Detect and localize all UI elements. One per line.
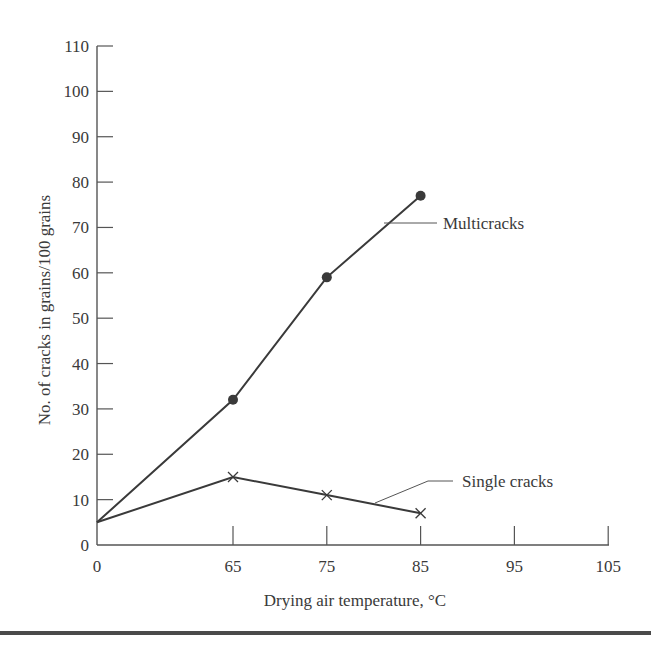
- y-tick-label: 80: [72, 173, 89, 192]
- data-point-circle: [416, 191, 426, 201]
- x-axis-title: Drying air temperature, °C: [264, 591, 446, 610]
- y-tick-label: 40: [72, 355, 89, 374]
- single-cracks-label: Single cracks: [462, 472, 553, 491]
- chart: 0102030405060708090100110 065758595105 M…: [0, 0, 651, 646]
- series-layer: [97, 191, 426, 523]
- y-tick-label: 20: [72, 445, 89, 464]
- x-axis-ticks: 065758595105: [93, 526, 621, 576]
- data-point-circle: [322, 272, 332, 282]
- y-tick-label: 0: [81, 536, 90, 555]
- multicracks-label: Multicracks: [443, 214, 524, 233]
- y-tick-label: 110: [64, 37, 89, 56]
- x-tick-label: 85: [412, 557, 429, 576]
- single-cracks-line: [97, 477, 421, 522]
- y-tick-label: 10: [72, 491, 89, 510]
- multicracks-line: [97, 196, 421, 523]
- y-tick-label: 100: [64, 82, 90, 101]
- x-tick-label: 0: [93, 557, 102, 576]
- y-tick-label: 30: [72, 400, 89, 419]
- x-tick-label: 75: [318, 557, 335, 576]
- data-point-circle: [228, 395, 238, 405]
- x-tick-label: 105: [595, 557, 621, 576]
- y-tick-label: 70: [72, 218, 89, 237]
- bottom-rule: [0, 631, 651, 635]
- y-tick-label: 60: [72, 264, 89, 283]
- y-axis-ticks: 0102030405060708090100110: [64, 37, 114, 555]
- x-tick-label: 95: [506, 557, 523, 576]
- y-axis-title: No. of cracks in grains/100 grains: [35, 195, 54, 425]
- y-tick-label: 90: [72, 128, 89, 147]
- annotation-layer: Multicracks Single cracks: [375, 214, 553, 503]
- single-cracks-leader-line: [375, 481, 453, 503]
- x-tick-label: 65: [225, 557, 242, 576]
- y-tick-label: 50: [72, 309, 89, 328]
